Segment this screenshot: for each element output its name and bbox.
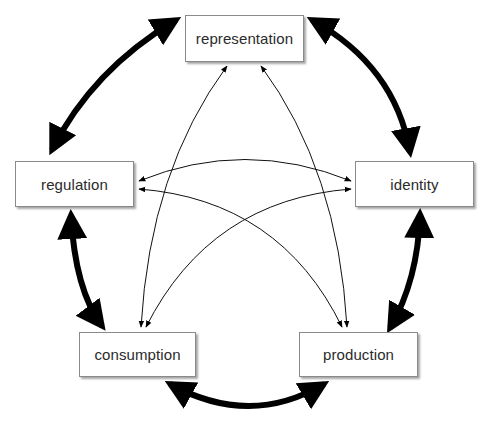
thin-arrow-representation-consumption [141, 66, 227, 327]
node-production: production [299, 332, 418, 377]
thick-arrow-regulation-representation [52, 20, 176, 150]
node-regulation: regulation [15, 161, 134, 207]
thick-arrow-consumption-regulation [71, 215, 102, 326]
node-representation: representation [185, 15, 304, 62]
node-label: representation [196, 30, 293, 47]
thick-arrow-identity-production [390, 214, 420, 328]
node-label: production [323, 346, 394, 363]
node-label: identity [390, 176, 438, 193]
thick-arrow-production-consumption [170, 384, 324, 406]
thin-arrow-identity-consumption [146, 189, 351, 327]
thin-arrow-regulation-production [139, 189, 342, 327]
node-label: regulation [41, 176, 108, 193]
node-label: consumption [94, 346, 180, 363]
circuit-diagram: representation identity production consu… [0, 0, 488, 425]
node-consumption: consumption [79, 332, 196, 377]
node-identity: identity [355, 161, 474, 207]
thick-arrow-representation-identity [312, 20, 410, 152]
